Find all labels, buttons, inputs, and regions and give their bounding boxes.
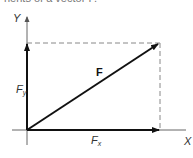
fy-label: Fy — [16, 84, 26, 96]
fy-subscript: y — [23, 89, 27, 96]
f-vector-arrow — [27, 44, 158, 130]
fx-subscript: x — [98, 140, 102, 147]
fx-label: Fx — [91, 135, 101, 147]
x-axis-label: X — [184, 136, 191, 147]
vector-f-label: F — [96, 67, 103, 78]
y-axis-label: Y — [13, 13, 20, 24]
fy-symbol: F — [16, 83, 23, 95]
fx-symbol: F — [91, 134, 98, 146]
